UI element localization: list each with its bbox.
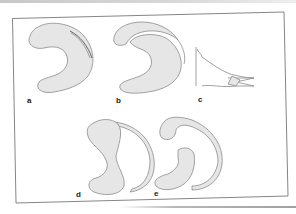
panel-b: b — [114, 22, 185, 105]
label-c: c — [198, 95, 203, 104]
shape-e-lower — [155, 148, 195, 190]
shape-b-body — [120, 35, 181, 94]
shape-c-tip-fill — [228, 76, 240, 86]
panel-e: e — [154, 117, 222, 198]
label-a: a — [27, 96, 32, 105]
label-b: b — [116, 96, 121, 105]
panel-a: a — [27, 23, 93, 105]
panel-d: d — [76, 120, 154, 200]
panel-c: c — [196, 47, 254, 104]
shape-c-outline — [196, 47, 254, 87]
label-d: d — [76, 190, 81, 199]
shape-a-body — [29, 23, 93, 92]
shape-d-body — [87, 120, 124, 195]
label-e: e — [154, 189, 159, 198]
diagram-canvas: a b c d e — [0, 0, 296, 214]
